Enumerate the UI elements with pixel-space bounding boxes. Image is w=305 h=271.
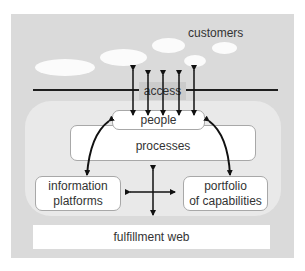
left-curve-arrow: [87, 121, 109, 175]
arrows-layer: [0, 0, 305, 271]
right-curve-arrow: [209, 121, 230, 175]
